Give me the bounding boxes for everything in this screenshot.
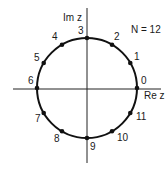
point-label-2: 2 [114,31,120,42]
point-label-1: 1 [134,51,140,62]
unit-circle-diagram: Im z Re z N = 12 0 1 2 3 4 5 6 7 8 9 10 … [0,0,168,169]
point-10 [110,129,115,134]
point-11 [128,111,133,116]
point-label-3: 3 [78,25,84,36]
point-6 [35,86,40,91]
n-label: N = 12 [131,24,161,35]
point-7 [41,111,46,116]
point-2 [110,42,115,47]
point-8 [60,129,65,134]
point-3 [85,36,90,41]
point-label-9: 9 [90,141,96,152]
point-label-0: 0 [141,75,147,86]
real-axis-label: Re z [144,90,165,101]
point-label-8: 8 [54,133,60,144]
point-label-7: 7 [35,113,41,124]
point-5 [41,61,46,66]
point-label-6: 6 [28,75,34,86]
point-label-10: 10 [117,132,129,143]
point-0 [135,86,140,91]
point-label-11: 11 [136,111,147,122]
point-label-5: 5 [34,52,40,63]
point-1 [128,61,133,66]
point-9 [85,136,90,141]
point-4 [60,42,65,47]
point-label-4: 4 [52,31,58,42]
imaginary-axis-label: Im z [63,12,82,23]
